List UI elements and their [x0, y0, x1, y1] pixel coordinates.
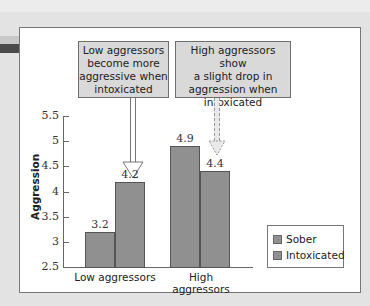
callout-line: intoxicated	[176, 96, 290, 109]
y-tick-label: 4.5	[29, 159, 59, 172]
callout-high-aggressors: High aggressors show a slight drop in ag…	[175, 41, 291, 98]
y-tick-label: 3.5	[29, 210, 59, 223]
callout-line: intoxicated	[79, 83, 168, 96]
y-tick	[63, 116, 69, 117]
legend-item-sober: Sober	[273, 233, 317, 245]
legend-swatch-icon	[273, 235, 282, 244]
callout-line: Low aggressors	[79, 44, 168, 57]
y-tick	[63, 242, 69, 243]
y-tick	[63, 217, 69, 218]
y-tick	[63, 166, 69, 167]
bar-value-label: 3.2	[85, 218, 115, 231]
dashed-arrow-head-icon	[208, 140, 226, 156]
y-tick-label: 5	[29, 134, 59, 147]
legend-label: Intoxicated	[286, 249, 345, 261]
x-category-label: High aggressors	[160, 271, 242, 295]
bar-high-intoxicated	[200, 171, 230, 268]
callout-line: aggressive when	[79, 70, 168, 83]
y-tick	[63, 267, 69, 268]
legend-label: Sober	[286, 233, 317, 245]
y-tick-label: 2.5	[29, 260, 59, 273]
solid-arrow-shaft	[130, 98, 136, 162]
bar-low-intoxicated	[115, 182, 145, 268]
y-tick-label: 4	[29, 185, 59, 198]
page-top-strip	[0, 0, 370, 12]
legend-item-intoxicated: Intoxicated	[273, 249, 345, 261]
callout-line: High aggressors show	[176, 44, 290, 70]
y-tick-label: 5.5	[29, 109, 59, 122]
y-tick	[63, 141, 69, 142]
bar-value-label: 4.9	[170, 132, 200, 145]
callout-low-aggressors: Low aggressors become more aggressive wh…	[78, 41, 169, 98]
callout-line: a slight drop in	[176, 70, 290, 83]
x-category-label: Low aggressors	[74, 271, 156, 283]
legend-swatch-icon	[273, 251, 282, 260]
bar-value-label: 4.4	[200, 157, 230, 170]
bar-value-label: 4.2	[115, 168, 145, 181]
callout-line: become more	[79, 57, 168, 70]
callout-line: aggression when	[176, 83, 290, 96]
y-tick	[63, 192, 69, 193]
y-tick-label: 3	[29, 235, 59, 248]
bar-high-sober	[170, 146, 200, 268]
side-tab-dark	[0, 44, 19, 53]
side-tab-light	[0, 36, 19, 44]
legend: Sober Intoxicated	[267, 225, 344, 268]
bar-low-sober	[85, 232, 115, 268]
dashed-arrow-shaft	[214, 98, 220, 141]
